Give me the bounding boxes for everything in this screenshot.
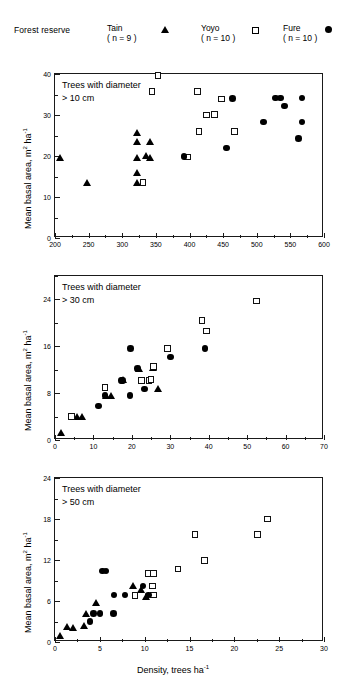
data-point-fure [299,119,306,126]
x-axis-tick [170,435,171,440]
data-point-yoyo [149,583,156,590]
legend-entry-tain: Tain ( n = 9 ) [107,23,137,43]
x-axis-minor-tick [77,639,78,642]
y-axis-minor-tick [55,370,58,371]
data-point-fure [223,145,230,152]
panel-annotation-line2: > 50 cm [62,496,141,509]
circle-icon [325,26,332,33]
data-point-fure [277,95,284,102]
legend-entry-yoyo-label: Yoyo [201,23,235,33]
y-axis-tick-label: 24 [21,296,51,303]
y-axis-tick [55,440,60,441]
data-point-tain [82,610,90,617]
x-axis-minor-tick [257,639,258,642]
data-point-yoyo [194,88,201,95]
legend-entry-tain-count: ( n = 9 ) [107,33,137,43]
x-axis-tick [286,435,287,440]
data-point-fure [90,610,97,617]
legend-entry-fure: Fure ( n = 10 ) [283,23,317,43]
data-point-fure [87,618,94,625]
data-point-yoyo [218,96,225,103]
y-axis-minor-tick [55,177,58,178]
x-axis-tick [247,435,248,440]
y-axis-tick [55,478,60,479]
x-axis-tick [156,233,157,238]
data-point-yoyo [203,328,210,335]
x-axis-minor-tick [173,235,174,238]
x-axis-tick-label: 50 [227,443,267,450]
y-axis-minor-tick [55,622,58,623]
x-axis-minor-tick [105,235,106,238]
y-axis-label: Mean basal area, m2 ha-1 [22,128,33,229]
data-point-tain [154,385,162,392]
data-point-fure [229,95,236,102]
y-axis-tick-label: 0 [21,235,51,242]
x-axis-tick [257,233,258,238]
data-point-fure [110,610,117,617]
x-axis-minor-tick [190,437,191,440]
y-axis-minor-tick [55,499,58,500]
x-axis-tick-label: 10 [125,645,165,652]
data-point-yoyo [150,363,157,370]
panel-annotation-line1: Trees with diameter [62,281,141,294]
y-axis-minor-tick [55,540,58,541]
legend-entry-fure-count: ( n = 10 ) [283,33,317,43]
data-point-yoyo [199,317,206,324]
data-point-tain [56,632,64,639]
y-axis-tick-label: 30 [21,112,51,119]
data-point-fure [103,568,110,575]
x-axis-tick-label: 30 [304,645,344,652]
panel-annotation-line1: Trees with diameter [62,79,141,92]
x-axis-tick [223,233,224,238]
x-axis-tick-label: 15 [170,645,210,652]
x-axis-minor-tick [151,437,152,440]
data-point-tain [133,154,141,161]
data-point-tain [146,138,154,145]
data-point-fure [122,592,129,599]
data-point-fure [167,354,174,361]
y-axis-minor-tick [55,417,58,418]
y-axis-tick [55,346,60,347]
y-axis-tick-label: 18 [21,516,51,523]
data-point-tain [69,624,77,631]
data-point-tain [133,138,141,145]
x-axis-minor-tick [167,639,168,642]
x-axis-tick [290,233,291,238]
data-point-fure [127,345,134,352]
legend-entry-yoyo-count: ( n = 10 ) [201,33,235,43]
y-axis-tick-label: 40 [21,71,51,78]
x-axis-minor-tick [139,235,140,238]
x-axis-tick [234,637,235,642]
data-point-fure [202,345,209,352]
y-axis-minor-tick [55,136,58,137]
x-axis-tick-label: 20 [214,645,254,652]
x-axis-tick [279,637,280,642]
data-point-fure [95,403,102,410]
data-point-yoyo [149,88,156,95]
x-axis-minor-tick [307,235,308,238]
x-axis-tick [190,637,191,642]
x-axis-tick-label: 0 [35,645,75,652]
data-point-fure [181,153,188,160]
y-axis-tick-label: 24 [21,475,51,482]
x-axis-minor-tick [212,639,213,642]
x-axis-tick [93,435,94,440]
x-axis-minor-tick [305,437,306,440]
data-point-yoyo [211,111,218,118]
data-point-yoyo [196,128,203,135]
x-axis-tick-label: 60 [266,443,306,450]
x-axis-minor-tick [228,437,229,440]
legend-entry-tain-label: Tain [107,23,137,33]
x-axis-tick [145,637,146,642]
x-axis-minor-tick [206,235,207,238]
data-point-yoyo [155,72,162,79]
x-axis-minor-tick [72,235,73,238]
data-point-yoyo [201,557,208,564]
y-axis-tick [55,393,60,394]
x-axis-tick-label: 30 [150,443,190,450]
y-axis-minor-tick [55,581,58,582]
data-point-tain [56,154,64,161]
legend-title: Forest reserve [14,25,70,35]
x-axis-minor-tick [122,639,123,642]
x-axis-tick-label: 10 [73,443,113,450]
